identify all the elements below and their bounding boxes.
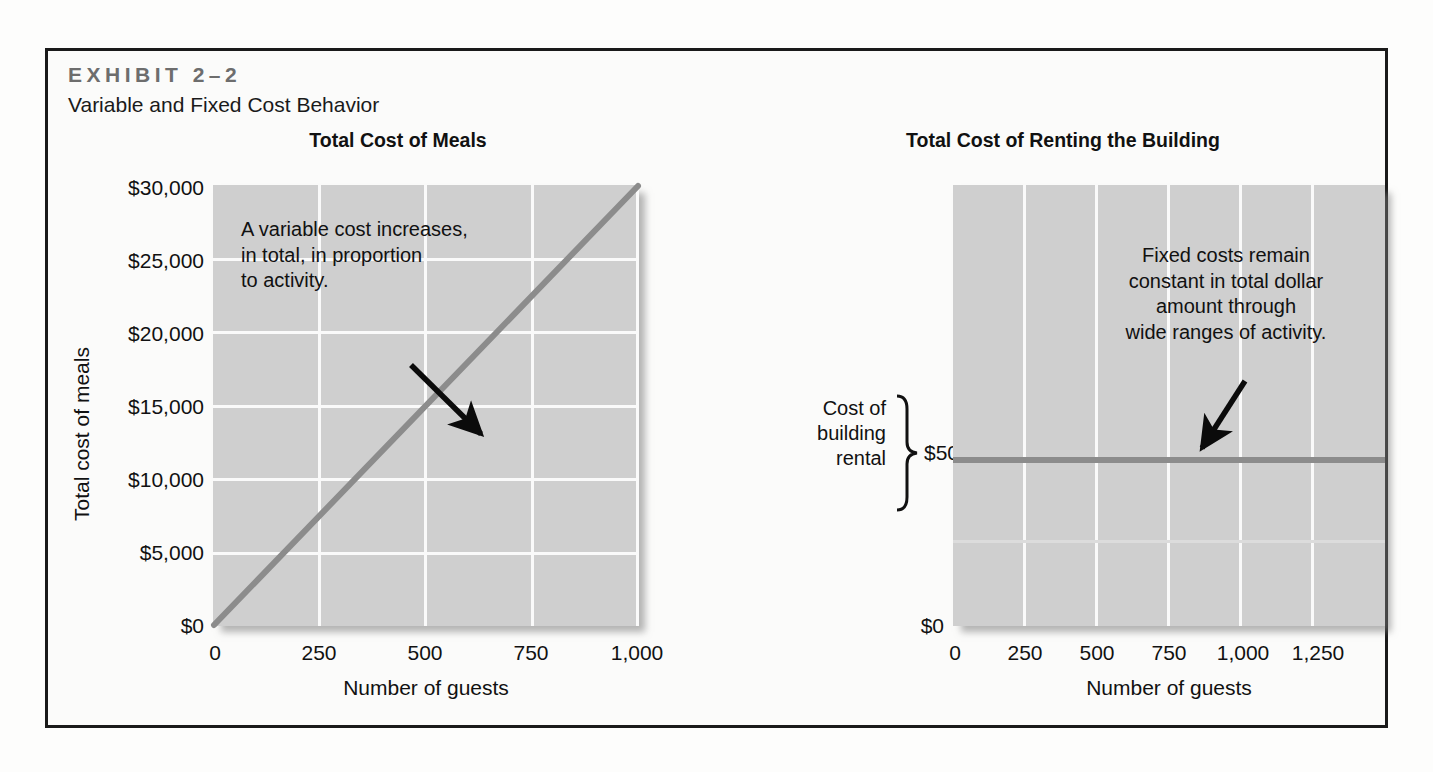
- plot-area-rent: Fixed costs remain constant in total dol…: [953, 185, 1385, 626]
- chart-total-cost-of-meals: Total Cost of Meals $30,000 $25,000 $20,…: [48, 51, 728, 725]
- ytick-rent-0: $0: [838, 614, 944, 638]
- gridline-h-rent-mid: [953, 540, 1385, 543]
- xtick-meals-0: 0: [209, 641, 221, 665]
- fixed-cost-line: [953, 457, 1385, 463]
- plot-area-meals: A variable cost increases, in total, in …: [213, 185, 639, 626]
- gridline-h-5000: [213, 552, 639, 555]
- annotation-fixed-cost: Fixed costs remain constant in total dol…: [1071, 243, 1381, 345]
- yaxis-label-meals: Total cost of meals: [70, 347, 94, 521]
- chart-title-meals: Total Cost of Meals: [158, 129, 638, 152]
- gridline-h-20000: [213, 331, 639, 334]
- gridline-h-10000: [213, 478, 639, 481]
- xaxis-label-meals: Number of guests: [213, 676, 639, 700]
- ytick-meals-25000: $25,000: [48, 249, 204, 273]
- gridline-h-15000: [213, 405, 639, 408]
- chart-title-rent: Total Cost of Renting the Building: [768, 129, 1358, 152]
- annotation-arrow-meals: [411, 365, 481, 434]
- xtick-rent-500: 500: [1079, 641, 1114, 665]
- gridline-v-rent-250: [1023, 185, 1026, 626]
- ytick-meals-30000: $30,000: [48, 176, 204, 200]
- ytick-meals-0: $0: [48, 614, 204, 638]
- xtick-meals-500: 500: [407, 641, 442, 665]
- xtick-meals-1000: 1,000: [611, 641, 664, 665]
- curly-brace-icon: [897, 396, 917, 510]
- xtick-rent-0: 0: [949, 641, 961, 665]
- ytick-meals-20000: $20,000: [48, 322, 204, 346]
- chart-total-cost-of-renting-the-building: Total Cost of Renting the Building Cost …: [728, 51, 1391, 725]
- xtick-meals-250: 250: [301, 641, 336, 665]
- xtick-rent-250: 250: [1007, 641, 1042, 665]
- xaxis-label-rent: Number of guests: [953, 676, 1385, 700]
- xtick-rent-1000: 1,000: [1217, 641, 1270, 665]
- ytick-meals-5000: $5,000: [48, 541, 204, 565]
- annotation-variable-cost: A variable cost increases, in total, in …: [241, 217, 571, 294]
- exhibit-frame: EXHIBIT 2–2 Variable and Fixed Cost Beha…: [45, 48, 1388, 728]
- xtick-rent-750: 750: [1151, 641, 1186, 665]
- xtick-meals-750: 750: [513, 641, 548, 665]
- xtick-rent-1250: 1,250: [1292, 641, 1345, 665]
- bracket-label-building-rental: Cost of building rental: [768, 396, 886, 471]
